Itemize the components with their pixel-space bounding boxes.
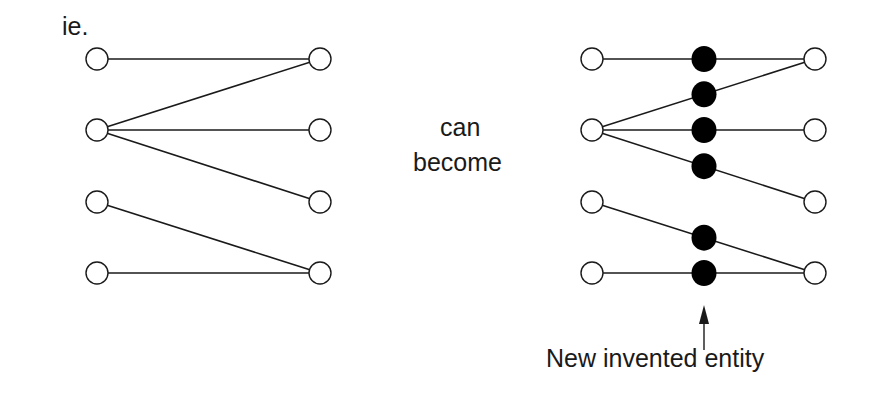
invented-entity-node xyxy=(692,260,717,286)
left-graph-right-node xyxy=(309,48,331,70)
right-graph-left-node xyxy=(581,119,603,141)
right-graph-left-node xyxy=(581,262,603,284)
right-graph-left-node xyxy=(581,191,603,213)
invented-entity-node xyxy=(692,81,717,107)
invented-entity-node xyxy=(692,225,717,251)
invented-entity-node xyxy=(692,153,717,179)
right-graph-right-node xyxy=(804,262,826,284)
left-graph-right-node xyxy=(309,262,331,284)
left-graph-edge xyxy=(97,202,320,273)
invented-entity-node xyxy=(692,117,717,143)
right-graph-left-node xyxy=(581,48,603,70)
invented-entity-node xyxy=(692,46,717,72)
left-graph-right-node xyxy=(309,191,331,213)
right-graph-right-node xyxy=(804,191,826,213)
left-graph-left-node xyxy=(86,119,108,141)
arrow-up-icon xyxy=(699,305,709,324)
left-graph-edge xyxy=(97,59,320,130)
bipartite-diagram xyxy=(0,0,874,404)
left-graph-left-node xyxy=(86,262,108,284)
right-graph-right-node xyxy=(804,119,826,141)
left-graph-right-node xyxy=(309,119,331,141)
right-graph-right-node xyxy=(804,48,826,70)
left-graph-left-node xyxy=(86,48,108,70)
left-graph-edge xyxy=(97,130,320,202)
left-graph-left-node xyxy=(86,191,108,213)
